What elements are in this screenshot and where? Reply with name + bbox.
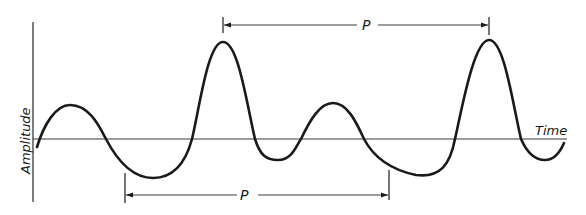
waveform-curve	[37, 40, 564, 178]
period-label-bottom: P	[240, 187, 249, 203]
y-axis-label: Amplitude	[18, 107, 33, 175]
period-marker-top: P	[223, 17, 489, 35]
period-label-top: P	[362, 17, 371, 33]
arrowhead-right-icon	[381, 193, 388, 198]
arrowhead-left-icon	[224, 23, 231, 28]
arrowhead-right-icon	[481, 23, 488, 28]
x-axis-label: Time	[535, 123, 567, 138]
arrowhead-left-icon	[126, 193, 133, 198]
waveform-diagram: P P Time Amplitude	[0, 0, 586, 215]
